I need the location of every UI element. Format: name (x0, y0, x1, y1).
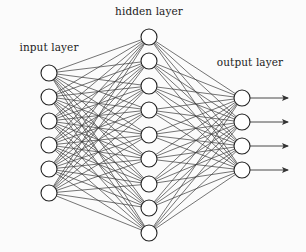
connection-edge (156, 65, 236, 117)
output-node-4 (234, 162, 250, 178)
neural-network-diagram: input layer hidden layer output layer (0, 0, 306, 252)
output-node-2 (234, 114, 250, 130)
input-node-5 (41, 161, 57, 177)
connection-edge (156, 114, 236, 165)
connection-edge (55, 150, 143, 227)
hidden-layer-label: hidden layer (115, 5, 183, 17)
hidden-node-1 (141, 29, 157, 45)
input-node-3 (41, 113, 57, 129)
network-canvas (0, 0, 306, 252)
hidden-node-8 (141, 200, 157, 216)
connection-edge (54, 67, 144, 186)
output-layer-label: output layer (217, 56, 283, 68)
hidden-node-9 (141, 225, 157, 241)
connection-edge (54, 92, 143, 187)
input-node-2 (41, 89, 57, 105)
input-layer-label: input layer (19, 41, 78, 53)
hidden-node-5 (141, 127, 157, 143)
hidden-node-3 (141, 78, 157, 94)
connection-edge (55, 42, 143, 116)
output-arrows-group (250, 98, 288, 170)
connection-edge (155, 151, 236, 227)
connection-edge (154, 105, 238, 227)
connection-edge (54, 43, 143, 139)
output-node-1 (234, 90, 250, 106)
connection-edge (156, 125, 234, 156)
connection-edge (156, 174, 236, 228)
connection-edge (156, 64, 234, 95)
hidden-node-7 (141, 176, 157, 192)
connection-edge (157, 87, 234, 97)
connection-edge (156, 113, 234, 143)
input-node-6 (41, 185, 57, 201)
hidden-node-2 (141, 53, 157, 69)
connection-edge (155, 103, 236, 178)
hidden-node-6 (141, 151, 157, 167)
hidden-node-4 (141, 102, 157, 118)
input-node-4 (41, 137, 57, 153)
input-node-1 (41, 65, 57, 81)
output-node-3 (234, 138, 250, 154)
connection-edge (156, 101, 234, 132)
